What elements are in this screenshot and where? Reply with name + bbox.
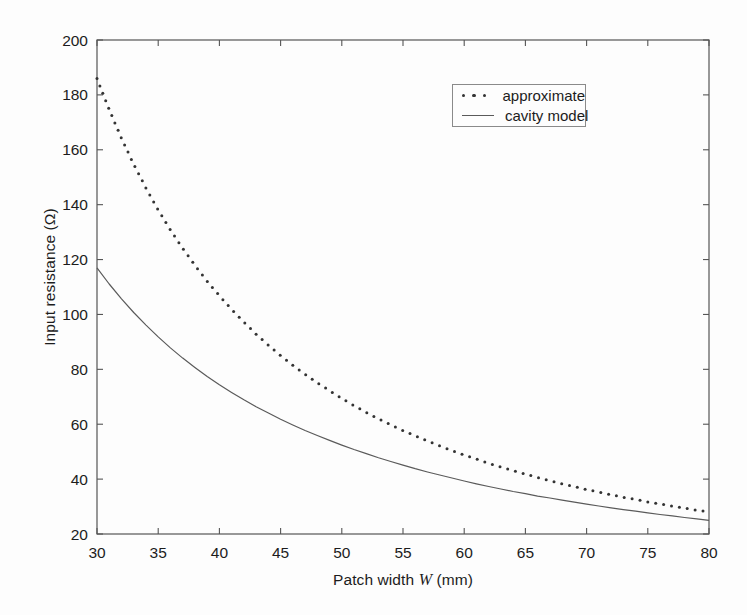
approximate-dot: [113, 121, 116, 124]
x-tick-label: 70: [578, 544, 596, 561]
approximate-dot: [476, 458, 479, 461]
approximate-dot: [537, 476, 540, 479]
approximate-dot: [670, 504, 673, 507]
approximate-dot: [317, 382, 320, 385]
approximate-dot: [646, 500, 649, 503]
x-axis-title-prefix: Patch width: [333, 571, 419, 588]
approximate-dot: [694, 508, 697, 511]
x-tick-label: 65: [517, 544, 534, 561]
approximate-dot: [702, 510, 705, 513]
approximate-dot: [279, 354, 282, 357]
y-tick-label: 60: [71, 416, 89, 433]
approximate-dot: [394, 426, 397, 429]
approximate-dot: [123, 143, 126, 146]
approximate-dot: [191, 261, 194, 264]
approximate-dot: [144, 186, 147, 189]
approximate-dot: [107, 107, 110, 110]
approximate-dot: [615, 494, 618, 497]
plot-border: [97, 40, 709, 534]
approximate-dot: [483, 460, 486, 463]
approximate-dot: [141, 179, 144, 182]
approximate-dot: [678, 506, 681, 509]
approximate-dot: [623, 496, 626, 499]
cavity-model-series: [97, 268, 709, 521]
approximate-dot: [545, 478, 548, 481]
x-tick-label: 80: [700, 544, 718, 561]
legend-label-cavity-model: cavity model: [505, 107, 588, 124]
approximate-dot: [553, 480, 556, 483]
approximate-dot: [211, 286, 214, 289]
approximate-dot: [639, 499, 642, 502]
approximate-dot: [169, 228, 172, 231]
x-axis-title-variable: W: [419, 571, 432, 588]
approximate-dot: [148, 193, 151, 196]
approximate-dot: [298, 368, 301, 371]
x-axis-title-suffix: (mm): [432, 571, 473, 588]
approximate-dot: [291, 364, 294, 367]
y-tick-label: 120: [62, 251, 88, 268]
approximate-dot: [491, 463, 494, 466]
approximate-dot: [311, 378, 314, 381]
x-tick-label: 75: [639, 544, 656, 561]
y-tick-label: 80: [71, 361, 89, 378]
approximate-dot: [654, 502, 657, 505]
y-tick-label: 200: [62, 32, 88, 49]
approximate-dot: [506, 468, 509, 471]
approximate-dot: [127, 151, 130, 154]
approximate-dot: [104, 99, 107, 102]
approximate-dot: [591, 489, 594, 492]
x-tick-label: 45: [272, 544, 289, 561]
approximate-dot: [438, 444, 441, 447]
x-axis-title: Patch width W (mm): [97, 571, 709, 589]
approximate-dot: [196, 267, 199, 270]
approximate-dot: [401, 429, 404, 432]
approximate-dot: [160, 214, 163, 217]
approximate-dot: [344, 399, 347, 402]
approximate-dot: [216, 292, 219, 295]
approximate-dot: [324, 387, 327, 390]
approximate-dot: [249, 327, 252, 330]
approximate-dot: [568, 484, 571, 487]
approximate-dot: [201, 274, 204, 277]
approximate-dot: [221, 298, 224, 301]
y-tick-label: 140: [62, 196, 88, 213]
approximate-dot: [206, 280, 209, 283]
approximate-dot: [380, 419, 383, 422]
approximate-dot: [631, 497, 634, 500]
y-tick-label: 180: [62, 86, 88, 103]
approximate-series: [96, 77, 705, 513]
solid-line-sample-icon: [462, 115, 494, 116]
x-tick-label: 55: [394, 544, 411, 561]
x-tick-label: 50: [333, 544, 351, 561]
approximate-dot: [499, 465, 502, 468]
y-tick-label: 20: [71, 526, 89, 543]
approximate-dot: [187, 254, 190, 257]
approximate-dot: [117, 129, 120, 132]
legend-entry-approximate: approximate: [453, 87, 585, 104]
legend: approximate cavity model: [452, 84, 586, 127]
approximate-dot: [96, 77, 99, 80]
legend-entry-cavity-model: cavity model: [453, 107, 585, 124]
y-tick-label: 100: [62, 306, 88, 323]
y-axis-title: Input resistance (Ω): [41, 208, 59, 346]
approximate-dot: [110, 114, 113, 117]
approximate-dot: [173, 235, 176, 238]
approximate-dot: [365, 411, 368, 414]
approximate-dot: [607, 493, 610, 496]
legend-label-approximate: approximate: [502, 87, 585, 104]
y-tick-label: 160: [62, 141, 88, 158]
approximate-dot: [686, 507, 689, 510]
approximate-dot: [372, 415, 375, 418]
chart-canvas: 3035404550556065707580204060801001201401…: [0, 0, 747, 615]
x-tick-label: 40: [211, 544, 229, 561]
approximate-dot: [358, 407, 361, 410]
approximate-dot: [243, 322, 246, 325]
resistance-vs-width-figure: 3035404550556065707580204060801001201401…: [0, 0, 747, 615]
x-tick-label: 30: [88, 544, 106, 561]
approximate-dot: [599, 491, 602, 494]
approximate-dot: [416, 435, 419, 438]
approximate-dot: [101, 92, 104, 95]
approximate-dot: [522, 472, 525, 475]
approximate-dot: [232, 310, 235, 313]
dotted-line-sample-icon: [462, 94, 491, 97]
